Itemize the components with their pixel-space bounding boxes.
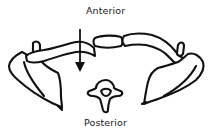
shoulder-girdle-diagram xyxy=(0,0,213,135)
posterior-label: Posterior xyxy=(84,117,127,128)
manubrium xyxy=(94,36,123,48)
vertebra xyxy=(88,80,123,112)
